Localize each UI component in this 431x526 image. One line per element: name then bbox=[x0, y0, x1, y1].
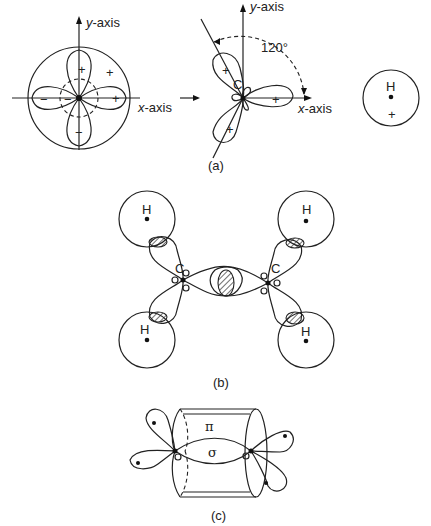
hydrogen-label-b-2: H bbox=[302, 202, 311, 217]
sign-inner-left: − bbox=[64, 92, 72, 107]
sigma-label: σ bbox=[208, 445, 217, 460]
hydrogen-label-b-4: H bbox=[301, 324, 310, 339]
x-axis-label-left: x-axis bbox=[137, 100, 172, 115]
y-axis-label-left: y-axis bbox=[85, 15, 120, 30]
hydrogen-label-b-3: H bbox=[140, 322, 149, 337]
sign-top-lobe: + bbox=[78, 62, 86, 77]
carbon-label-b-right: C bbox=[271, 261, 280, 276]
sign-lower-lobe: + bbox=[226, 122, 234, 137]
arrow-icon bbox=[180, 95, 200, 101]
caption-a: (a) bbox=[208, 158, 224, 173]
orbital-diagram: y-axis x-axis + + + − − − y-axis x-axis bbox=[0, 0, 431, 526]
sign-right-lobe: + bbox=[112, 91, 120, 106]
caption-c: (c) bbox=[211, 508, 226, 523]
sign-right-lobe-middle: + bbox=[272, 92, 280, 107]
hydrogen-label-b-1: H bbox=[142, 202, 151, 217]
sign-left-lobe: − bbox=[40, 92, 48, 107]
sign-upper-lobe: + bbox=[222, 63, 230, 78]
panel-b-ethylene-sigma bbox=[119, 191, 334, 368]
carbon-label-a: C bbox=[233, 77, 242, 92]
pi-label: π bbox=[205, 419, 214, 434]
carbon-label-b-left: C bbox=[175, 261, 184, 276]
x-axis-label-middle: x-axis bbox=[297, 101, 332, 116]
sign-bottom-lobe: − bbox=[75, 125, 83, 140]
angle-label: 120° bbox=[261, 40, 288, 55]
sign-hydrogen: + bbox=[388, 107, 396, 122]
sign-outer-s: + bbox=[106, 65, 114, 80]
panel-a-middle-hybrid-orbitals bbox=[201, 4, 312, 158]
hydrogen-label-a: H bbox=[386, 79, 395, 94]
y-axis-label-middle: y-axis bbox=[249, 0, 284, 14]
caption-b: (b) bbox=[213, 375, 229, 390]
